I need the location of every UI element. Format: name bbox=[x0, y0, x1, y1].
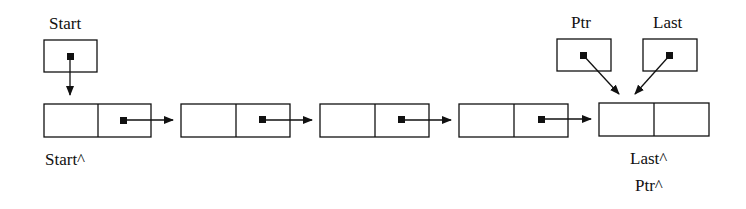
list-node-4 bbox=[459, 104, 568, 137]
start-label: Start bbox=[49, 15, 81, 32]
node-5-caption-last: Last^ bbox=[630, 150, 667, 167]
next-dot-1 bbox=[120, 117, 127, 124]
ptr-arrow bbox=[583, 55, 619, 94]
start-pointer-dot bbox=[67, 53, 74, 60]
ptr-label: Ptr bbox=[571, 14, 591, 31]
list-node-5 bbox=[599, 103, 709, 136]
next-dot-4 bbox=[538, 116, 545, 123]
node-1-caption: Start^ bbox=[45, 151, 85, 168]
next-dot-3 bbox=[398, 116, 405, 123]
last-pointer-dot bbox=[666, 52, 673, 59]
next-dot-2 bbox=[259, 116, 266, 123]
node-5-caption-ptr: Ptr^ bbox=[635, 177, 663, 194]
last-arrow bbox=[635, 55, 670, 94]
ptr-pointer-dot bbox=[580, 52, 587, 59]
last-label: Last bbox=[653, 14, 682, 31]
